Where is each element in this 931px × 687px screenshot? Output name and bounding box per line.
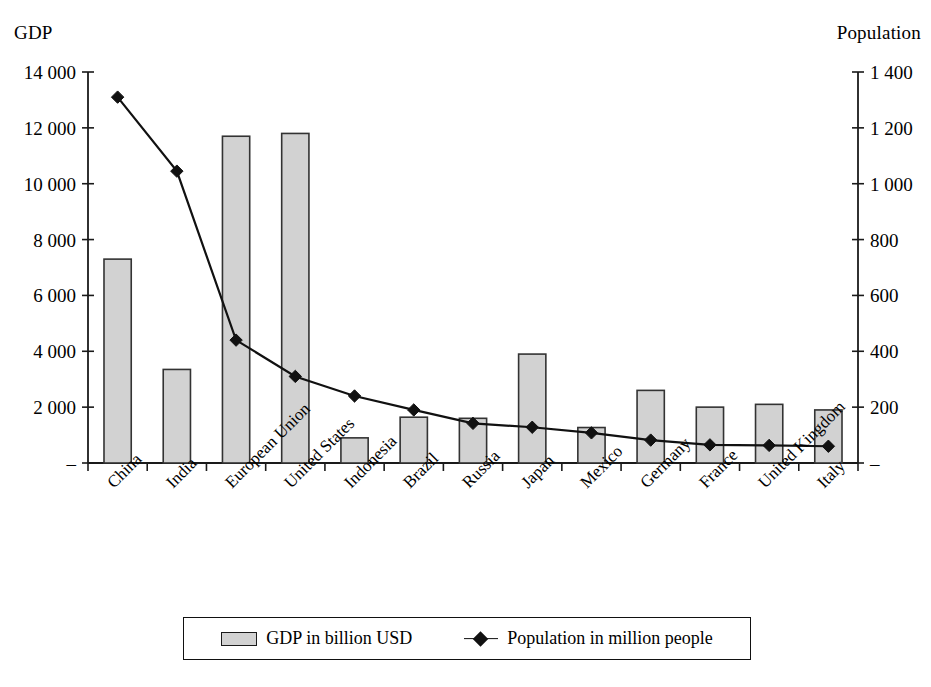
line-series <box>111 91 834 453</box>
right-axis-tick-label: – <box>870 454 880 473</box>
dual-axis-chart: GDP Population –2 0004 0006 0008 00010 0… <box>0 0 931 687</box>
left-axis-tick-label: – <box>67 454 77 473</box>
right-axis-tick-label: 600 <box>870 286 899 305</box>
right-axis-tick-label: 1 400 <box>870 63 913 82</box>
right-axis-tick-label: 800 <box>870 230 899 249</box>
line-diamond-icon <box>464 633 498 645</box>
left-axis-title: GDP <box>14 22 53 44</box>
axes <box>82 72 864 471</box>
left-axis-tick-label: 8 000 <box>33 230 76 249</box>
right-axis-tick-label: 200 <box>870 398 899 417</box>
left-axis-tick-label: 14 000 <box>24 63 76 82</box>
right-axis-tick-label: 1 000 <box>870 174 913 193</box>
right-axis-tick-label: 1 200 <box>870 118 913 137</box>
right-axis-title: Population <box>837 22 921 44</box>
legend-item-gdp: GDP in billion USD <box>221 628 412 649</box>
legend-label-population: Population in million people <box>507 628 713 649</box>
right-axis-tick-label: 400 <box>870 342 899 361</box>
left-axis-tick-label: 12 000 <box>24 118 76 137</box>
legend-label-gdp: GDP in billion USD <box>266 628 412 649</box>
legend-item-population: Population in million people <box>464 628 713 649</box>
left-axis-tick-label: 10 000 <box>24 174 76 193</box>
bar-series <box>104 133 842 463</box>
left-axis-tick-label: 2 000 <box>33 398 76 417</box>
chart-legend: GDP in billion USD Population in million… <box>183 617 751 660</box>
left-axis-tick-label: 6 000 <box>33 286 76 305</box>
bar-swatch-icon <box>221 632 257 646</box>
plot-area <box>0 0 931 687</box>
left-axis-tick-label: 4 000 <box>33 342 76 361</box>
